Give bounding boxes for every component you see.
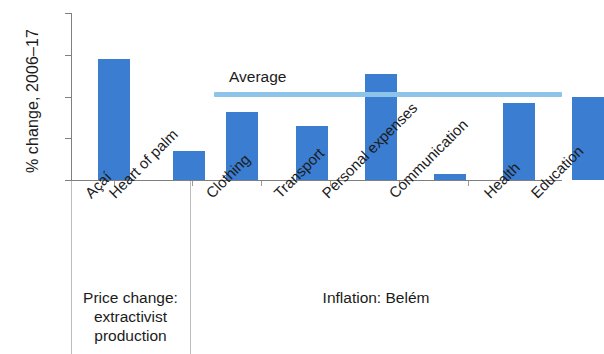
average-line	[214, 92, 562, 97]
bar-communication	[434, 174, 466, 180]
bar-education	[572, 97, 604, 180]
y-axis-title: % change, 2006–17	[24, 6, 42, 196]
average-line-label: Average	[229, 68, 286, 86]
group-separator-middle	[190, 181, 191, 354]
group-caption-extractivist-line-2: extractivist	[71, 307, 190, 326]
bar-heart-of-palm	[173, 151, 205, 180]
group-caption-inflation: Inflation: Belém	[190, 288, 562, 307]
x-tick-mark-2	[261, 181, 262, 186]
bar-acai	[98, 59, 130, 180]
group-caption-inflation-line-1: Inflation: Belém	[190, 288, 562, 307]
x-tick-mark-1	[192, 181, 193, 186]
group-caption-extractivist: Price change: extractivist production	[71, 288, 190, 345]
x-tick-mark-5	[468, 181, 469, 186]
group-caption-extractivist-line-1: Price change:	[71, 288, 190, 307]
group-caption-extractivist-line-3: production	[71, 326, 190, 345]
